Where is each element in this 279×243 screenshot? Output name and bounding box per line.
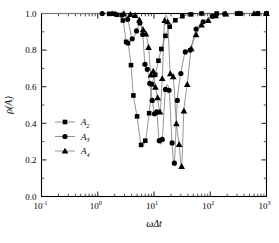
- marker-A2: [163, 34, 168, 39]
- y-axis-title: ρ(A): [3, 96, 15, 115]
- marker-A2: [135, 114, 140, 119]
- y-tick-label: 1.0: [25, 9, 37, 19]
- marker-A3: [147, 81, 152, 86]
- marker-A3: [183, 49, 188, 54]
- marker-A3: [130, 36, 135, 41]
- y-tick-label: 0.0: [25, 192, 37, 202]
- y-tick-label: 0.2: [25, 155, 36, 165]
- scientific-line-chart: 10-1100101102103 0.00.20.40.60.81.0 A2A3…: [0, 0, 279, 243]
- marker-A2: [143, 138, 148, 143]
- y-tick-label: 0.6: [25, 82, 37, 92]
- marker-A2: [167, 24, 172, 29]
- marker-A2: [159, 47, 164, 52]
- marker-A2: [147, 111, 152, 116]
- marker-A2: [131, 93, 136, 98]
- marker-A2: [199, 11, 204, 16]
- marker-A3: [134, 28, 139, 33]
- marker-A2: [121, 18, 126, 23]
- marker-A3: [170, 140, 175, 145]
- legend-marker-A2: [63, 120, 68, 125]
- marker-A3: [160, 137, 165, 142]
- y-tick-label: 0.4: [25, 119, 37, 129]
- marker-A2: [180, 14, 185, 19]
- marker-A2: [156, 58, 161, 63]
- marker-A3: [166, 88, 171, 93]
- x-axis-title: ωΔt: [146, 218, 162, 229]
- marker-A2: [139, 143, 144, 148]
- marker-A3: [125, 17, 130, 22]
- marker-A3: [150, 98, 155, 103]
- marker-A3: [172, 161, 177, 166]
- marker-A3: [100, 11, 105, 16]
- marker-A2: [129, 63, 134, 68]
- marker-A3: [145, 67, 150, 72]
- figure-container: 10-1100101102103 0.00.20.40.60.81.0 A2A3…: [0, 0, 279, 243]
- marker-A3: [175, 98, 180, 103]
- marker-A3: [178, 71, 183, 76]
- marker-A2: [188, 12, 193, 17]
- legend-marker-A3: [62, 134, 67, 139]
- marker-A2: [173, 18, 178, 23]
- marker-A2: [126, 41, 131, 46]
- marker-A3: [142, 62, 147, 67]
- y-tick-label: 0.8: [25, 45, 37, 55]
- marker-A3: [194, 26, 199, 31]
